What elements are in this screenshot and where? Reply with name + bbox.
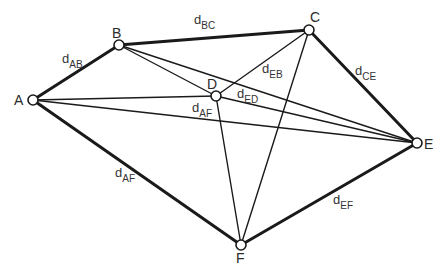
node-label: D [207, 76, 217, 92]
edge-b-c [119, 30, 309, 45]
edge-label-d-bc: dBC [194, 12, 215, 31]
node-e: E [412, 136, 433, 152]
node-label: B [112, 25, 121, 41]
node-c: C [304, 9, 320, 35]
edge-a-e [33, 100, 417, 143]
node-d: D [207, 76, 221, 101]
edge-label-d-af: dAF [192, 100, 212, 119]
node-label: E [424, 136, 433, 152]
edge-d-f [216, 96, 241, 245]
edge-e-f [241, 143, 417, 245]
node-circle-icon [304, 25, 314, 35]
edge-label-d-ef: dEF [333, 192, 353, 211]
edge-label-d-ce: dCE [355, 63, 376, 82]
node-circle-icon [211, 91, 221, 101]
node-label: C [310, 9, 320, 25]
node-circle-icon [412, 138, 422, 148]
node-circle-icon [114, 40, 124, 50]
edge-b-d [119, 45, 216, 96]
edge-a-d [33, 96, 216, 100]
edge-c-e [309, 30, 417, 143]
node-label: F [236, 250, 245, 266]
edge-label-d-eb: dEB [262, 61, 283, 80]
node-b: B [112, 25, 124, 50]
node-f: F [236, 240, 246, 266]
node-a: A [14, 92, 38, 108]
network-diagram: dABdBCdEBdCEdEDdAFdAFdEF ABCDEF [0, 0, 448, 275]
node-circle-icon [28, 95, 38, 105]
edge-a-f [33, 100, 241, 245]
node-circle-icon [236, 240, 246, 250]
node-label: A [14, 92, 24, 108]
edge-a-b [33, 45, 119, 100]
edge-label-d-ab: dAB [62, 51, 83, 70]
